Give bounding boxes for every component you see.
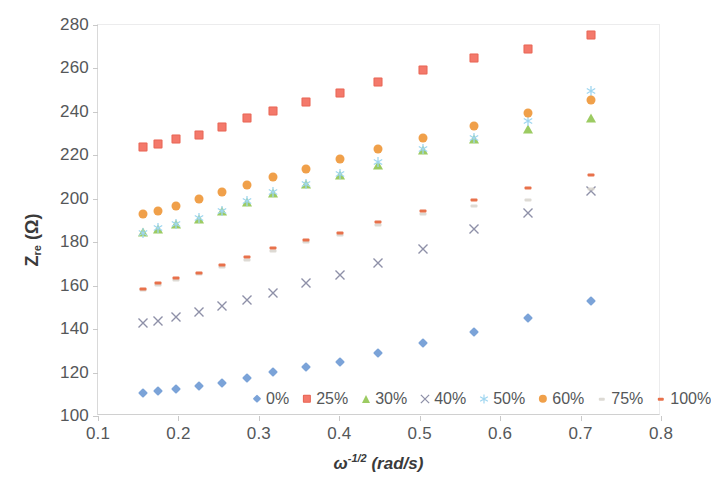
data-point-50pct [216, 205, 227, 216]
data-point-100pct [218, 264, 225, 267]
data-point-100pct [470, 198, 477, 201]
data-point-60pct [418, 133, 427, 142]
y-axis-label: Zre (Ω) [22, 214, 43, 267]
data-point-40pct [300, 278, 311, 289]
data-point-0pct [153, 387, 163, 397]
data-point-40pct [335, 269, 346, 280]
chart-legend: 0%25%30%40%50%60%75%100% [250, 391, 711, 407]
legend-marker-icon [250, 393, 263, 406]
data-point-100pct [419, 209, 426, 212]
legend-entry-40pct[interactable]: 40% [418, 391, 466, 407]
x-axis-tick-mark [339, 416, 340, 421]
data-point-75pct [525, 198, 532, 201]
data-point-0pct [171, 384, 181, 394]
data-point-50pct [300, 178, 311, 189]
data-point-25pct [217, 123, 226, 132]
data-point-0pct [523, 313, 533, 323]
legend-marker-icon [359, 393, 372, 406]
x-axis-tick-mark [661, 416, 662, 421]
data-point-100pct [243, 256, 250, 259]
data-point-50pct [138, 228, 149, 239]
data-point-25pct [587, 31, 596, 40]
legend-marker-icon [418, 393, 431, 406]
data-point-25pct [242, 114, 251, 123]
data-point-40pct [468, 224, 479, 235]
legend-marker-icon [654, 393, 667, 406]
legend-marker-icon [300, 393, 313, 406]
data-point-25pct [154, 140, 163, 149]
data-point-40pct [268, 288, 279, 299]
legend-marker-icon [536, 393, 549, 406]
data-point-25pct [194, 130, 203, 139]
data-point-0pct [469, 327, 479, 337]
x-axis-tick-mark [98, 416, 99, 421]
data-point-50pct [417, 143, 428, 154]
data-point-0pct [138, 388, 148, 398]
legend-label: 0% [266, 391, 289, 407]
legend-label: 60% [552, 391, 584, 407]
data-point-100pct [302, 239, 309, 242]
data-point-50pct [153, 223, 164, 234]
data-point-40pct [241, 295, 252, 306]
data-point-50pct [193, 213, 204, 224]
x-axis-tick-mark [259, 416, 260, 421]
x-axis-tick-mark [178, 416, 179, 421]
data-point-25pct [301, 97, 310, 106]
data-point-60pct [373, 144, 382, 153]
data-point-100pct [155, 282, 162, 285]
data-point-60pct [336, 155, 345, 164]
data-point-60pct [217, 187, 226, 196]
data-point-100pct [337, 231, 344, 234]
data-point-0pct [301, 362, 311, 372]
data-point-75pct [470, 205, 477, 208]
data-point-60pct [242, 180, 251, 189]
data-point-0pct [268, 367, 278, 377]
data-point-100pct [195, 271, 202, 274]
data-point-75pct [270, 249, 277, 252]
data-point-25pct [269, 106, 278, 115]
data-point-75pct [419, 212, 426, 215]
data-point-100pct [588, 174, 595, 177]
legend-entry-100pct[interactable]: 100% [654, 391, 711, 407]
legend-entry-0pct[interactable]: 0% [250, 391, 289, 407]
data-point-0pct [217, 378, 227, 388]
data-point-60pct [194, 194, 203, 203]
data-point-100pct [140, 287, 147, 290]
legend-label: 40% [434, 391, 466, 407]
legend-entry-50pct[interactable]: 50% [477, 391, 525, 407]
data-point-0pct [418, 338, 428, 348]
data-point-0pct [242, 373, 252, 383]
data-points-layer [98, 25, 659, 414]
data-point-0pct [373, 348, 383, 358]
data-point-25pct [373, 78, 382, 87]
data-point-100pct [270, 247, 277, 250]
legend-marker-icon [595, 393, 608, 406]
legend-entry-60pct[interactable]: 60% [536, 391, 584, 407]
legend-marker-icon [477, 393, 490, 406]
legend-entry-25pct[interactable]: 25% [300, 391, 348, 407]
data-point-75pct [588, 188, 595, 191]
data-point-100pct [525, 187, 532, 190]
legend-entry-30pct[interactable]: 30% [359, 391, 407, 407]
data-point-60pct [269, 173, 278, 182]
data-point-100pct [374, 220, 381, 223]
data-point-50pct [468, 132, 479, 143]
data-point-40pct [193, 307, 204, 318]
data-point-30pct [586, 114, 596, 123]
legend-label: 100% [670, 391, 711, 407]
legend-label: 30% [375, 391, 407, 407]
x-axis-tick-mark [420, 416, 421, 421]
data-point-60pct [301, 164, 310, 173]
data-point-0pct [335, 357, 345, 367]
data-point-60pct [154, 206, 163, 215]
data-point-50pct [335, 168, 346, 179]
plot-area: 1001201401601802002202402602800.10.20.30… [97, 24, 660, 415]
data-point-60pct [172, 201, 181, 210]
data-point-25pct [172, 135, 181, 144]
data-point-50pct [241, 195, 252, 206]
data-point-0pct [194, 381, 204, 391]
x-axis-tick-mark [581, 416, 582, 421]
legend-label: 75% [611, 391, 643, 407]
legend-entry-75pct[interactable]: 75% [595, 391, 643, 407]
